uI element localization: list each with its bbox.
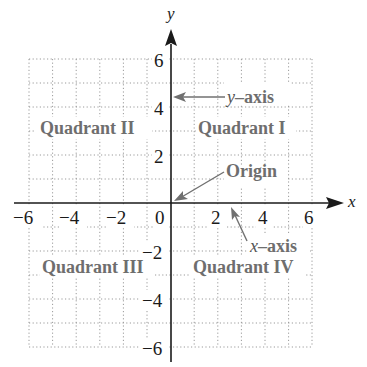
- svg-text:6: 6: [154, 50, 164, 71]
- svg-text:0: 0: [155, 207, 165, 228]
- svg-text:−6: −6: [13, 207, 33, 228]
- svg-text:−4: −4: [142, 290, 163, 311]
- quadrant-ii-label: Quadrant II: [40, 118, 135, 138]
- y-tick-labels: 6 4 2 −2 −4 −6: [142, 50, 164, 359]
- svg-text:2: 2: [211, 207, 221, 228]
- svg-text:−4: −4: [59, 207, 80, 228]
- y-axis-arrowhead-icon: [165, 29, 177, 46]
- arrow-down-left-icon: [174, 191, 188, 201]
- svg-text:−6: −6: [142, 338, 162, 359]
- coordinate-plane: y x 6 4 2 −2 −4 −6 −6 −4 −2 0 2 4 6 Quad…: [0, 0, 367, 367]
- arrow-up-left-icon: [231, 207, 240, 220]
- svg-text:y–axis: y–axis: [225, 87, 274, 107]
- quadrant-iv-label: Quadrant IV: [193, 257, 294, 277]
- svg-text:x–axis: x–axis: [249, 236, 297, 256]
- quadrant-iii-label: Quadrant III: [42, 257, 144, 277]
- y-axis-label: y: [165, 4, 175, 23]
- svg-text:6: 6: [304, 207, 314, 228]
- quadrant-i-label: Quadrant I: [198, 118, 286, 138]
- svg-text:2: 2: [154, 146, 164, 167]
- y-axis-annotation: y–axis: [173, 87, 274, 107]
- svg-text:Origin: Origin: [226, 161, 277, 181]
- svg-text:−2: −2: [106, 207, 126, 228]
- svg-text:−2: −2: [142, 242, 162, 263]
- x-axis-label: x: [347, 192, 356, 211]
- svg-text:4: 4: [154, 98, 164, 119]
- svg-text:4: 4: [258, 207, 268, 228]
